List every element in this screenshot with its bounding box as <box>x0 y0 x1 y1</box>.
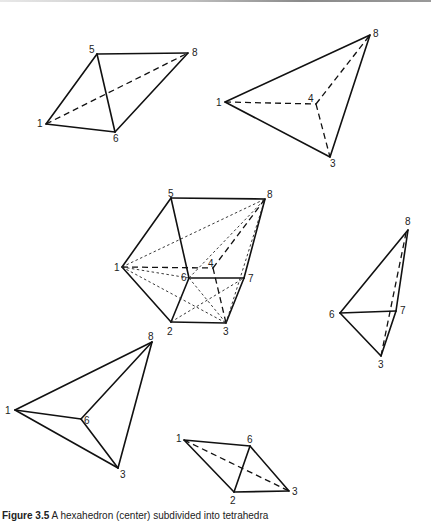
vertex-label: 5 <box>168 188 174 199</box>
tetrahedron-1-2-3-6: 1 6 2 3 <box>176 433 298 506</box>
vertex-label: 5 <box>89 44 95 55</box>
vertex-label: 3 <box>330 158 336 169</box>
caption-text: A hexahedron (center) subdivided into te… <box>51 510 268 521</box>
vertex-label: 8 <box>267 189 273 200</box>
vertex-label: 1 <box>37 118 43 129</box>
vertex-label: 1 <box>216 97 222 108</box>
tetrahedron-1-3-6-8: 1 6 3 8 <box>5 331 154 480</box>
vertex-label: 2 <box>167 326 173 337</box>
vertex-label: 4 <box>208 258 214 269</box>
hexahedron: 1 2 3 4 5 6 7 8 <box>114 188 273 337</box>
vertex-label: 8 <box>405 216 411 227</box>
vertex-label: 6 <box>329 309 335 320</box>
vertex-label: 8 <box>192 47 198 58</box>
tetrahedron-1-5-6-8: 1 5 6 8 <box>37 44 198 144</box>
vertex-label: 6 <box>247 434 253 445</box>
vertex-label: 7 <box>248 273 254 284</box>
vertex-label: 3 <box>292 486 298 497</box>
figure-caption: Figure 3.5 A hexahedron (center) subdivi… <box>2 510 422 521</box>
vertex-label: 1 <box>114 262 120 273</box>
vertex-label: 6 <box>181 272 187 283</box>
vertex-label: 3 <box>378 359 384 370</box>
vertex-label: 8 <box>373 28 379 39</box>
vertex-label: 3 <box>120 469 126 480</box>
vertex-label: 2 <box>230 495 236 506</box>
vertex-label: 3 <box>223 326 229 337</box>
vertex-label: 8 <box>148 331 154 342</box>
vertex-label: 1 <box>176 433 182 444</box>
tetrahedron-3-6-7-8: 6 7 3 8 <box>329 216 411 370</box>
tetrahedron-1-3-4-8: 1 4 3 8 <box>216 28 379 169</box>
vertex-label: 4 <box>308 93 314 104</box>
vertex-label: 6 <box>84 415 90 426</box>
vertex-label: 1 <box>5 405 11 416</box>
vertex-label: 6 <box>113 133 119 144</box>
vertex-label: 7 <box>400 305 406 316</box>
caption-label: Figure 3.5 <box>2 510 49 521</box>
tetrahedra-figure: 1 5 6 8 1 4 3 8 1 2 <box>0 0 431 521</box>
